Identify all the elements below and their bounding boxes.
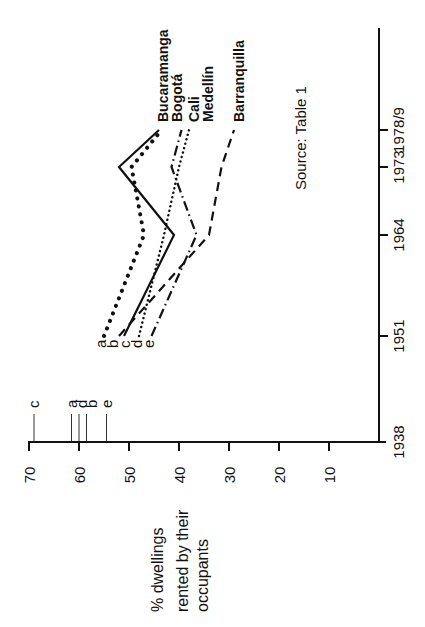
start-labels-1951: abcde [92,339,157,348]
source-note: Source: Table 1 [292,86,309,190]
value-tick-label: 10 [321,467,338,484]
series-end-label: Bogotá [169,74,185,122]
rotated-line-chart: 10203040506070 19381951196419731978/9 ca… [0,0,425,627]
series-line-e [152,130,197,336]
markers-1938: cadbe [25,399,115,441]
value-axis-title-line: rented by their [174,509,191,612]
year-tick-label: 1978/9 [390,107,407,153]
value-tick-label: 50 [121,467,138,484]
value-axis-title-line: % dwellings [149,528,166,612]
year-tick-label: 1973 [390,150,407,183]
marker-1938-label: c [25,400,42,408]
value-tick-label: 40 [171,467,188,484]
series-end-label: Medellín [200,66,216,122]
value-axis-title-line: occupants [194,539,211,612]
start-label-e: e [140,340,157,348]
value-tick-label: 30 [221,467,238,484]
year-tick-label: 1964 [390,218,407,251]
value-axis-title: % dwellingsrented by theiroccupants [149,509,211,612]
year-tick-label: 1951 [390,319,407,352]
year-axis-ticks: 19381951196419731978/9 [379,107,407,459]
series-line-a [104,130,162,336]
series-lines [104,130,234,336]
value-tick-label: 60 [71,467,88,484]
series-end-label: Barranquilla [231,40,247,122]
marker-1938-label: e [98,400,115,408]
value-axis-ticks: 10203040506070 [21,442,338,483]
value-tick-label: 70 [21,467,38,484]
year-tick-label: 1938 [390,425,407,458]
series-line-d [139,130,189,336]
value-tick-label: 20 [271,467,288,484]
series-end-labels: BucaramangaBogotáCaliMedellínBarranquill… [155,29,247,122]
